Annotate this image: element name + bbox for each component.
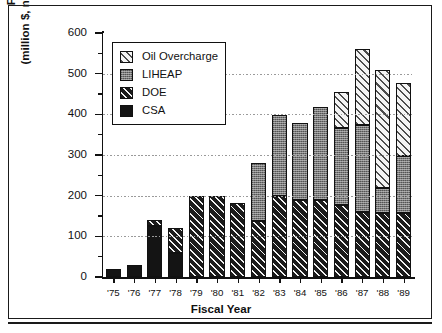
legend-item-label: Oil Overcharge [142,51,218,62]
footer-rule [8,322,432,324]
x-tick [134,278,135,283]
x-tick [155,278,156,283]
x-tick [404,278,405,283]
bar-segment-csa[interactable] [127,265,142,277]
bar-segment-doe[interactable] [292,200,307,277]
x-tick [259,278,260,283]
bar-82[interactable] [251,163,266,277]
legend-item-oil-overcharge[interactable]: Oil Overcharge [120,48,225,66]
bar-segment-oil-overcharge[interactable] [355,49,370,124]
bar-segment-csa[interactable] [168,253,183,277]
legend-item-csa[interactable]: CSA [120,102,225,120]
bar-88[interactable] [375,70,390,277]
bar-86[interactable] [334,92,349,277]
bar-segment-doe[interactable] [147,220,162,226]
y-tick-label: 100 [9,230,87,242]
bar-segment-liheap[interactable] [375,188,390,212]
x-tick [176,278,177,283]
bar-segment-oil-overcharge[interactable] [334,92,349,129]
bar-segment-doe[interactable] [355,212,370,277]
bar-segment-doe[interactable] [334,205,349,277]
y-tick-label: 400 [9,108,87,120]
x-tick [362,278,363,283]
legend-item-liheap[interactable]: LIHEAP [120,66,225,84]
legend-swatch-icon [120,105,133,117]
bar-84[interactable] [292,123,307,277]
y-tick-major [95,154,103,155]
legend-swatch-icon [120,87,133,99]
gridline [103,236,414,237]
x-tick [300,278,301,283]
y-tick-label: 600 [9,27,87,39]
bar-segment-oil-overcharge[interactable] [396,83,411,156]
x-tick [321,278,322,283]
y-tick-major [95,236,103,237]
gridline [103,155,414,156]
bar-segment-liheap[interactable] [396,156,411,213]
bar-75[interactable] [106,269,121,277]
x-axis-title: Fiscal Year [9,302,433,315]
x-tick [217,278,218,283]
bar-segment-doe[interactable] [251,221,266,277]
bar-segment-doe[interactable] [230,203,245,277]
bar-segment-liheap[interactable] [355,125,370,212]
x-tick [238,278,239,283]
gridline [103,196,414,197]
y-tick-label: 0 [9,271,87,283]
bar-segment-csa[interactable] [106,269,121,277]
bar-segment-csa[interactable] [147,226,162,277]
y-tick-major [95,73,103,74]
bar-segment-oil-overcharge[interactable] [375,70,390,188]
legend-item-doe[interactable]: DOE [120,84,225,102]
x-tick [383,278,384,283]
legend-swatch-icon [120,69,133,81]
bar-segment-doe[interactable] [168,228,183,252]
bar-segment-doe[interactable] [396,213,411,277]
x-tick [113,278,114,283]
legend-swatch-icon [120,51,133,63]
y-tick-label: 300 [9,149,87,161]
bar-77[interactable] [147,220,162,277]
bar-segment-liheap[interactable] [334,128,349,204]
bar-85[interactable] [313,107,328,277]
x-tick [341,278,342,283]
bar-segment-doe[interactable] [313,200,328,277]
y-tick-label: 500 [9,68,87,80]
bar-87[interactable] [355,49,370,277]
y-tick-major [95,195,103,196]
legend-item-label: DOE [142,87,166,98]
bar-segment-liheap[interactable] [251,163,266,221]
y-tick-major [95,276,103,277]
x-tick [279,278,280,283]
bar-81[interactable] [230,203,245,277]
bar-segment-liheap[interactable] [313,107,328,200]
x-tick [196,278,197,283]
y-tick-label: 200 [9,190,87,202]
legend-item-label: LIHEAP [142,69,182,80]
chart-legend: Oil OverchargeLIHEAPDOECSA [112,42,226,125]
figure-frame: Funding Level (million $, not adjusted f… [8,5,432,319]
x-tick-label: '89 [390,287,418,298]
bar-89[interactable] [396,83,411,277]
bar-segment-liheap[interactable] [292,123,307,199]
legend-item-label: CSA [142,105,165,116]
bar-segment-doe[interactable] [375,213,390,277]
y-tick-major [95,114,103,115]
y-tick-major [95,32,103,33]
bar-76[interactable] [127,265,142,277]
